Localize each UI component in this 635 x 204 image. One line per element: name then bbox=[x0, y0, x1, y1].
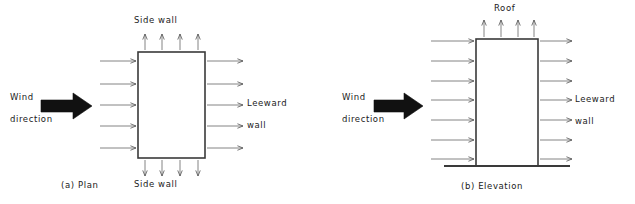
plan-top-sidewall-label: Side wall bbox=[134, 16, 177, 25]
plan-leeward-wall-label: Leeward wall bbox=[247, 98, 287, 130]
elevation-view-caption: (b) Elevation bbox=[461, 181, 523, 191]
plan-leeward-arrows bbox=[207, 61, 243, 148]
plan-wind-label-line2: direction bbox=[10, 114, 53, 124]
elevation-building-outline bbox=[476, 39, 538, 166]
plan-wind-label-line1: Wind bbox=[10, 92, 53, 102]
elevation-view-panel: Roof Wind direction Leeward wall (b) Ele… bbox=[318, 0, 635, 204]
elevation-leeward-arrows bbox=[540, 41, 572, 159]
elevation-leeward-label-line2: wall bbox=[575, 116, 615, 126]
elevation-roof-arrows bbox=[484, 20, 534, 37]
elevation-leeward-label-line1: Leeward bbox=[575, 94, 615, 104]
plan-leeward-label-line1: Leeward bbox=[247, 98, 287, 108]
plan-leeward-label-line2: wall bbox=[247, 120, 287, 130]
elevation-windward-arrows bbox=[431, 41, 474, 159]
plan-bottom-sidewall-label: Side wall bbox=[134, 180, 177, 189]
plan-bottom-sidewall-arrows bbox=[145, 160, 198, 176]
plan-wind-direction-label: Wind direction bbox=[10, 92, 53, 124]
elevation-wind-direction-label: Wind direction bbox=[342, 92, 385, 124]
wind-pressure-diagram: Side wall Side wall Wind direction Leewa… bbox=[0, 0, 635, 204]
plan-top-sidewall-arrows bbox=[145, 34, 198, 50]
elevation-roof-label: Roof bbox=[494, 4, 515, 13]
plan-building-outline bbox=[138, 52, 205, 158]
plan-view-panel: Side wall Side wall Wind direction Leewa… bbox=[0, 0, 318, 204]
elevation-wind-label-line2: direction bbox=[342, 114, 385, 124]
elevation-wind-label-line1: Wind bbox=[342, 92, 385, 102]
plan-view-caption: (a) Plan bbox=[61, 180, 98, 190]
plan-windward-arrows bbox=[100, 61, 136, 148]
elevation-leeward-wall-label: Leeward wall bbox=[575, 94, 615, 126]
